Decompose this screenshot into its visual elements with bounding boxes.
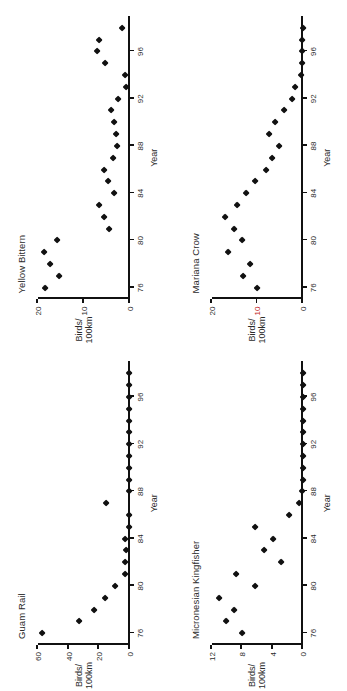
- data-point: [109, 154, 117, 162]
- x-axis-tick-label: 96: [136, 392, 145, 401]
- x-axis-line: [128, 16, 130, 300]
- y-axis-tick: [256, 300, 258, 304]
- x-axis-tick: [303, 144, 307, 146]
- y-axis-tick-label: 0: [125, 307, 134, 311]
- x-axis-tick-label: 96: [309, 47, 318, 56]
- y-axis-tick: [301, 300, 303, 304]
- y-axis-tick: [67, 645, 69, 649]
- data-point: [263, 166, 271, 174]
- x-axis-tick-label: 92: [309, 94, 318, 103]
- y-axis-tick: [240, 645, 242, 649]
- plot-area: Year Birds/ 100km 76808488929601020: [38, 16, 130, 300]
- panel-title: Mariana Crow: [190, 233, 201, 293]
- y-axis-title-line2: 100km: [257, 317, 267, 344]
- data-point: [42, 284, 50, 292]
- y-axis-line: [212, 298, 304, 300]
- x-axis-tick-label: 76: [309, 283, 318, 292]
- y-axis-tick: [128, 300, 130, 304]
- data-point: [93, 48, 101, 56]
- data-point: [104, 178, 112, 186]
- x-axis-tick: [130, 239, 134, 241]
- x-axis-tick-label: 80: [309, 581, 318, 590]
- y-axis-tick-label: 8: [238, 652, 247, 656]
- data-point: [55, 272, 63, 280]
- x-axis-tick-label: 88: [136, 141, 145, 150]
- x-axis-tick-label: 80: [136, 581, 145, 590]
- y-axis-tick-label: 4: [268, 652, 277, 656]
- x-axis-tick: [130, 97, 134, 99]
- x-axis-tick-label: 80: [309, 236, 318, 245]
- data-point: [39, 629, 47, 637]
- data-point: [112, 130, 120, 138]
- data-point: [231, 225, 239, 233]
- y-axis-tick-label: 12: [207, 652, 216, 661]
- data-point: [126, 417, 134, 425]
- panel-grid: Guam Rail Year Birds/ 100km 768084889296…: [0, 0, 347, 691]
- y-axis-title-line1: Birds/: [74, 662, 84, 689]
- y-axis-title-line2: 100km: [257, 662, 267, 689]
- x-axis-tick: [130, 584, 134, 586]
- panel-title: Guam Rail: [16, 593, 27, 639]
- data-point: [40, 248, 48, 256]
- x-axis-tick: [303, 286, 307, 288]
- data-point: [96, 36, 104, 44]
- data-point: [107, 107, 115, 115]
- data-point: [252, 523, 260, 531]
- data-point: [101, 213, 109, 221]
- x-axis-title: Year: [149, 494, 159, 512]
- data-point: [115, 95, 123, 103]
- data-point: [242, 189, 250, 197]
- x-axis-tick: [130, 632, 134, 634]
- x-axis-tick-label: 92: [136, 94, 145, 103]
- x-axis-tick-label: 76: [136, 629, 145, 638]
- x-axis-tick: [303, 239, 307, 241]
- data-point: [96, 201, 104, 209]
- x-axis-tick: [130, 286, 134, 288]
- x-axis-title: Year: [149, 149, 159, 167]
- x-axis-tick-label: 84: [309, 189, 318, 198]
- data-point: [298, 48, 306, 56]
- y-axis-line: [212, 643, 304, 645]
- x-axis-tick-label: 84: [136, 534, 145, 543]
- y-axis-tick-label: 60: [34, 652, 43, 661]
- x-axis-tick-label: 92: [136, 440, 145, 449]
- x-axis-tick: [303, 537, 307, 539]
- y-axis-title: Birds/ 100km: [74, 317, 94, 344]
- x-axis-tick-label: 84: [309, 534, 318, 543]
- x-axis-tick-label: 76: [136, 283, 145, 292]
- data-point: [265, 130, 273, 138]
- data-point: [299, 36, 307, 44]
- y-axis-line: [38, 643, 130, 645]
- data-point: [288, 95, 296, 103]
- x-axis-tick: [130, 144, 134, 146]
- y-axis-tick-label: 10: [79, 307, 88, 316]
- y-axis-tick-label: 40: [64, 652, 73, 661]
- x-axis-line: [128, 362, 130, 646]
- data-point: [119, 24, 127, 32]
- y-axis-tick: [82, 300, 84, 304]
- x-axis-tick-label: 84: [136, 189, 145, 198]
- data-point: [272, 119, 280, 127]
- data-point: [106, 225, 114, 233]
- x-axis-tick: [303, 192, 307, 194]
- y-axis-tick-label: 20: [34, 307, 43, 316]
- data-point: [238, 629, 246, 637]
- x-axis-tick: [303, 97, 307, 99]
- data-point: [238, 237, 246, 245]
- data-point: [222, 618, 230, 626]
- data-point: [111, 189, 119, 197]
- data-point: [278, 559, 286, 567]
- panel-yellow-bittern: Yellow Bittern Year Birds/ 100km 7680848…: [0, 0, 174, 346]
- x-axis-tick: [130, 192, 134, 194]
- y-axis-title: Birds/ 100km: [247, 662, 267, 689]
- y-axis-title-line2: 100km: [84, 662, 94, 689]
- x-axis-tick-label: 88: [309, 487, 318, 496]
- y-axis-tick: [210, 300, 212, 304]
- data-point: [54, 237, 62, 245]
- x-axis-tick: [303, 632, 307, 634]
- data-point: [114, 142, 122, 150]
- data-point: [234, 201, 242, 209]
- data-point: [298, 488, 306, 496]
- data-point: [254, 284, 262, 292]
- data-point: [247, 260, 255, 268]
